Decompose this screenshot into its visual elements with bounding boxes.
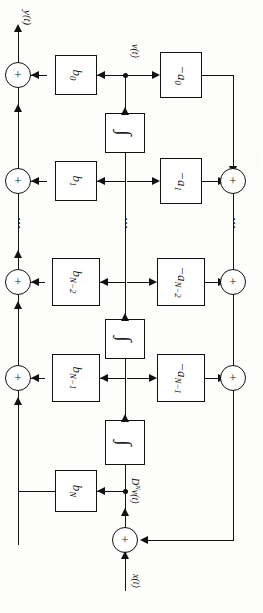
wire-a0-out: [202, 75, 233, 76]
arrow-input: [121, 551, 129, 559]
arrow-state-to-a1: [152, 177, 160, 185]
gain-box-a0-label: −a0: [173, 65, 189, 85]
arrow-b0-to-summer: [31, 71, 39, 79]
wire-aN2-to-summer: [205, 282, 218, 283]
gain-box-b0: b0: [55, 55, 97, 95]
arrow-state-to-aN1: [149, 374, 157, 382]
summer-row-n1: [5, 365, 31, 391]
output-label: y(t): [22, 10, 34, 25]
arrow-summer1-to-summer0: [14, 104, 22, 112]
arrow-state-to-bN2: [100, 278, 108, 286]
arrow-state-to-b1: [97, 177, 105, 185]
summer-fb-row1: [220, 168, 246, 194]
arrow-into-integrator-3: [121, 414, 129, 422]
arrow-input-summer-up: [121, 508, 129, 516]
arrow-summer-n2-up: [14, 250, 22, 258]
arrow-bN1-to-summer: [31, 374, 39, 382]
summer-fb-row-n2: [220, 269, 246, 295]
arrow-state-to-aN2: [149, 278, 157, 286]
wire-a0-down: [233, 75, 234, 168]
gain-box-b1-label: b1: [68, 176, 84, 187]
gain-box-bN-label: bN: [68, 485, 84, 497]
state-label: v(t): [130, 44, 141, 58]
integrator-1-symbol: ∫: [115, 130, 135, 135]
wire-feedback-to-summer: [146, 540, 234, 541]
arrow-b1-to-summer: [31, 177, 39, 185]
arrow-state-to-a0: [152, 71, 160, 79]
gain-box-b1: b1: [55, 161, 97, 201]
arrow-state-to-bN1: [100, 374, 108, 382]
integrator-3-symbol: ∫: [115, 440, 135, 445]
gain-box-bN: bN: [55, 470, 97, 512]
integrator-2: ∫: [105, 319, 145, 359]
summer-row0: [5, 62, 31, 88]
arrow-into-integrator-2: [121, 313, 129, 321]
arrow-summer-n1-up: [14, 301, 22, 309]
ellipsis-center: ...: [120, 213, 132, 225]
summer-fb-row-n1: [220, 365, 246, 391]
gain-box-aN-2: −aN−2: [157, 258, 205, 306]
gain-box-a0: −a0: [160, 52, 202, 98]
integrator-2-symbol: ∫: [115, 336, 135, 341]
gain-box-b0-label: b0: [68, 70, 84, 81]
summer-row1: [5, 168, 31, 194]
wire-state-to-aN1: [127, 378, 149, 379]
gain-box-aN-1: −aN−1: [157, 354, 205, 402]
wire-aN1-to-summer: [205, 378, 218, 379]
integrator-1: ∫: [105, 113, 145, 153]
gain-box-a1-label: −a1: [173, 171, 189, 191]
summer-input: [112, 527, 138, 553]
wire-state-to-aN2: [127, 282, 149, 283]
summer-row-n2: [5, 269, 31, 295]
gain-box-aN-2-label: −aN−2: [173, 266, 189, 298]
arrow-feedback-into-summer: [140, 536, 148, 544]
input-label: x(t): [131, 574, 142, 588]
output-arrow: [14, 24, 22, 32]
margin-caption: · · · · · · · ·: [248, 0, 262, 613]
gain-box-bN-1-label: bN−1: [68, 367, 84, 390]
figure-canvas: y(t) b0 v(t) −a0 ∫ b1 −a1 ...: [0, 0, 263, 613]
integrator-3: ∫: [105, 420, 145, 465]
wire-state-to-a0: [127, 75, 152, 76]
gain-box-a1: −a1: [160, 158, 202, 204]
wire-a1-to-summer: [202, 181, 218, 182]
margin-caption-text: · · · · · · · ·: [255, 150, 260, 169]
arrow-state-to-bN: [97, 487, 105, 495]
arrow-into-integrator-1: [121, 107, 129, 115]
ellipsis-right: ...: [228, 213, 240, 225]
gain-box-bN-2: bN−2: [52, 258, 100, 306]
arrow-state-to-b0: [97, 71, 105, 79]
wire-state-to-a1: [127, 181, 152, 182]
dnv-label: DNv(t): [130, 478, 142, 504]
arrow-bN2-to-summer: [31, 278, 39, 286]
wire-feedback-down: [233, 391, 234, 540]
gain-box-aN-1-label: −aN−1: [173, 362, 189, 394]
ellipsis-left: ...: [13, 213, 25, 225]
gain-box-bN-2-label: bN−2: [68, 271, 84, 294]
dnv-tap-node: [123, 489, 128, 494]
arrow-bN-into-summer-n1: [14, 397, 22, 405]
gain-box-bN-1: bN−1: [52, 354, 100, 402]
wire-bN-left: [18, 491, 55, 492]
